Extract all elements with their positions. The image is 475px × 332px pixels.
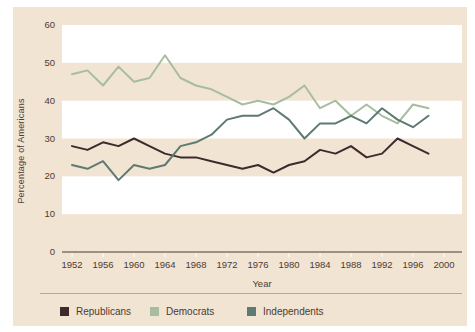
legend-item-independents: Independents bbox=[247, 304, 324, 318]
y-tick-label: 0 bbox=[29, 246, 55, 257]
legend-item-democrats: Democrats bbox=[150, 304, 214, 318]
y-tick-label: 40 bbox=[29, 95, 55, 106]
grid-band bbox=[62, 176, 462, 214]
x-tick-label: 2000 bbox=[427, 259, 461, 270]
legend-label: Independents bbox=[263, 306, 324, 317]
x-tick-label: 1980 bbox=[272, 259, 306, 270]
grid-band bbox=[62, 25, 462, 63]
legend: RepublicansDemocratsIndependents bbox=[13, 304, 467, 320]
y-tick-label: 20 bbox=[29, 170, 55, 181]
legend-swatch-icon bbox=[247, 307, 256, 316]
y-axis-title: Percentage of Americans bbox=[16, 84, 28, 218]
x-tick-label: 1960 bbox=[117, 259, 151, 270]
x-tick-label: 1964 bbox=[148, 259, 182, 270]
y-tick-label: 10 bbox=[29, 208, 55, 219]
chart-figure: Percentage of Americans Year 01020304050… bbox=[13, 7, 467, 326]
x-tick-label: 1996 bbox=[396, 259, 430, 270]
y-tick-label: 30 bbox=[29, 133, 55, 144]
x-tick-label: 1984 bbox=[303, 259, 337, 270]
x-tick-label: 1968 bbox=[179, 259, 213, 270]
legend-separator-line bbox=[40, 293, 462, 294]
legend-label: Democrats bbox=[166, 306, 214, 317]
x-tick-label: 1992 bbox=[365, 259, 399, 270]
x-tick-label: 1952 bbox=[55, 259, 89, 270]
y-tick-label: 60 bbox=[29, 19, 55, 30]
x-tick-label: 1972 bbox=[210, 259, 244, 270]
legend-swatch-icon bbox=[60, 307, 69, 316]
series-line-republicans bbox=[72, 139, 429, 173]
x-tick-label: 1988 bbox=[334, 259, 368, 270]
x-tick-label: 1956 bbox=[86, 259, 120, 270]
grid-band bbox=[62, 101, 462, 139]
x-axis-title: Year bbox=[202, 278, 322, 289]
legend-label: Republicans bbox=[76, 306, 131, 317]
y-tick-label: 50 bbox=[29, 57, 55, 68]
legend-swatch-icon bbox=[150, 307, 159, 316]
x-tick-label: 1976 bbox=[241, 259, 275, 270]
legend-item-republicans: Republicans bbox=[60, 304, 131, 318]
